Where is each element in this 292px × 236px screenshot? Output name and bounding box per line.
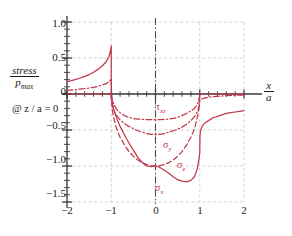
x-tick-label: −1 [102,205,120,216]
curve-label-tau-xz: τxz [156,102,166,115]
curve-label-sigma-y: σy [163,140,171,153]
stress-distribution-chart: 1.0 0.5 0 −0.5 −1.0 −1.5 −2 −1 0 1 2 str… [0,0,292,236]
y-axis-label-numerator: stress [10,65,39,76]
y-tick-label: −0.5 [33,120,66,131]
curve-label-sigma-z: σz [177,160,185,173]
x-axis-label-numerator: x [264,80,274,91]
y-tick-label: −1.5 [33,188,66,199]
y-tick-label: 1.0 [38,18,66,29]
y-axis-label: stress pmax [10,65,39,91]
chart-canvas [0,0,292,236]
condition-label: @ z / a = 0 [12,104,58,115]
x-axis-label: x a [264,80,274,103]
x-tick-label: 2 [235,205,253,216]
y-tick-label: 0 [38,86,66,97]
x-tick-label: 0 [147,205,165,216]
x-tick-label: −2 [58,205,76,216]
x-tick-label: 1 [191,205,209,216]
x-axis-label-denominator: a [264,91,274,103]
curve-label-sigma-x: σx [155,183,163,196]
y-tick-label: −1.0 [33,154,66,165]
y-axis-label-denominator: pmax [10,76,39,91]
y-tick-label: 0.5 [38,52,66,63]
